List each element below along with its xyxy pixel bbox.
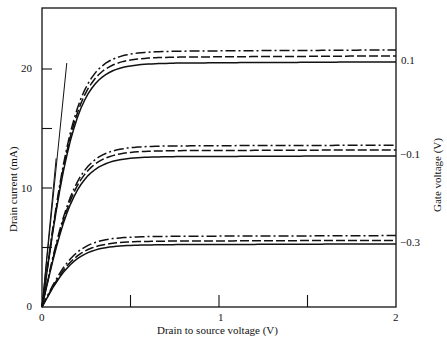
- axes-frame: [42, 8, 396, 307]
- chart-plot-area: [0, 0, 447, 348]
- gate-voltage-label-neg0.1: −0.1: [400, 148, 420, 160]
- x-tick-label-2: 2: [393, 311, 399, 323]
- x-axis-title: Drain to source voltage (V): [157, 324, 278, 336]
- curve-dashed-vg--0.1: [42, 150, 396, 307]
- curve-dash-dot-vg-0.1: [42, 50, 396, 307]
- y-tick-label-20: 20: [8, 62, 32, 74]
- gate-voltage-label-0.1: 0.1: [401, 54, 415, 66]
- curves: [42, 50, 396, 307]
- x-tick-label-0: 0: [39, 311, 45, 323]
- plot-frame: [42, 8, 396, 307]
- curve-solid-vg--0.1: [42, 156, 396, 307]
- y2-axis-title: Gate voltage (V): [431, 138, 443, 212]
- curve-solid-vg-0.1: [42, 62, 396, 307]
- curve-dashed-vg-0.1: [42, 56, 396, 307]
- y-axis-title: Drain current (mA): [7, 146, 19, 232]
- gate-voltage-label-neg0.3: −0.3: [400, 236, 420, 248]
- y-tick-label-0: 0: [8, 300, 32, 312]
- x-tick-label-1: 1: [218, 311, 224, 323]
